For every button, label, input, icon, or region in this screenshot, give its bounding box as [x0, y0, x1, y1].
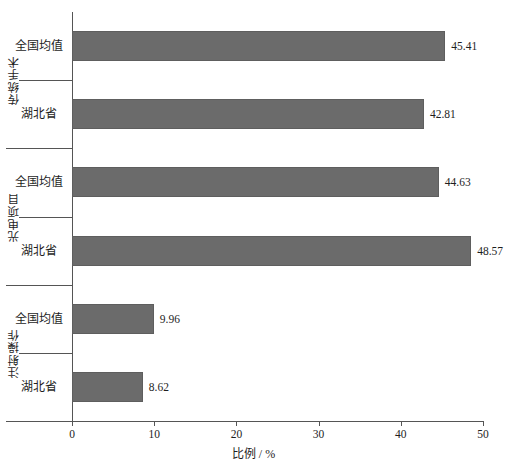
bar-value-label: 9.96 — [160, 304, 180, 334]
category-label: 全国均值 — [6, 167, 72, 197]
category-label: 全国均值 — [6, 304, 72, 334]
group-separator-tick — [6, 421, 72, 422]
category-label: 湖北省 — [6, 372, 72, 402]
bar — [72, 304, 154, 334]
bar-value-label: 42.81 — [430, 99, 456, 129]
x-axis-tick-label: 20 — [216, 428, 256, 440]
bar — [72, 167, 439, 197]
bar-value-label: 48.57 — [477, 236, 503, 266]
x-axis-tick — [319, 421, 320, 426]
x-axis-tick-label: 50 — [463, 428, 503, 440]
x-axis-title: 比例 / % — [0, 444, 507, 462]
x-axis-tick-label: 30 — [299, 428, 339, 440]
bar — [72, 372, 143, 402]
x-axis-tick-label: 10 — [134, 428, 174, 440]
category-label: 湖北省 — [6, 99, 72, 129]
x-axis-line — [72, 421, 483, 422]
bar — [72, 236, 471, 266]
category-label: 湖北省 — [6, 236, 72, 266]
bar-value-label: 45.41 — [451, 31, 477, 61]
category-separator-tick — [19, 353, 72, 354]
plot-area — [72, 12, 483, 421]
category-separator-tick — [19, 217, 72, 218]
x-axis-tick — [401, 421, 402, 426]
x-axis-tick — [483, 421, 484, 426]
bar — [72, 99, 424, 129]
category-label: 全国均值 — [6, 31, 72, 61]
category-separator-tick — [19, 80, 72, 81]
x-axis-tick — [154, 421, 155, 426]
x-axis-tick — [236, 421, 237, 426]
bar-chart: 传统手术 光电项目 注射操作 全国均值45.41湖北省42.81全国均值44.6… — [0, 0, 507, 463]
group-separator-tick — [6, 285, 72, 286]
x-axis-tick — [72, 421, 73, 426]
group-separator-tick — [6, 148, 72, 149]
x-axis-tick-label: 40 — [381, 428, 421, 440]
bar-value-label: 8.62 — [149, 372, 169, 402]
bar — [72, 31, 445, 61]
x-axis-tick-label: 0 — [52, 428, 92, 440]
bar-value-label: 44.63 — [445, 167, 471, 197]
